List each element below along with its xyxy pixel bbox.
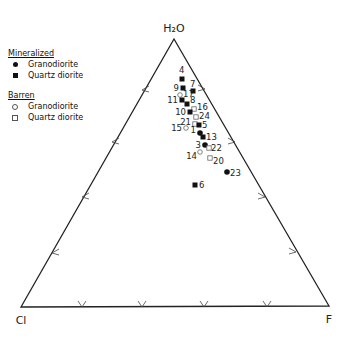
legend: Mineralized Granodiorite Quartz diorite … [8, 46, 83, 123]
data-point-23: 23 [224, 168, 241, 178]
svg-text:3: 3 [196, 140, 201, 150]
data-point-14: 14 [186, 150, 202, 161]
svg-text:5: 5 [202, 120, 207, 130]
vertex-label-cl: Cl [16, 314, 27, 327]
data-point-20: 20 [208, 156, 224, 166]
data-point-10: 10 [175, 107, 192, 117]
svg-text:23: 23 [230, 168, 241, 178]
legend-label: Quartz diorite [28, 70, 83, 81]
filled-circle-icon [10, 62, 20, 67]
svg-text:10: 10 [175, 107, 186, 117]
data-point-6: 6 [193, 180, 205, 190]
legend-item-barren-quartz-diorite: Quartz diorite [10, 112, 83, 123]
tick-marks [52, 85, 296, 307]
svg-text:6: 6 [199, 180, 204, 190]
legend-item-mineralized-quartz-diorite: Quartz diorite [10, 70, 83, 81]
svg-text:9: 9 [174, 83, 179, 93]
svg-text:22: 22 [211, 143, 222, 153]
data-point-22: 22 [207, 143, 222, 153]
svg-text:1: 1 [191, 125, 196, 135]
legend-heading-barren: Barren [8, 90, 83, 101]
open-square-icon [10, 115, 20, 121]
vertex-label-h2o: H₂O [163, 22, 185, 35]
svg-text:4: 4 [179, 65, 184, 75]
svg-text:20: 20 [213, 156, 224, 166]
open-circle-icon [10, 104, 20, 110]
filled-square-icon [10, 73, 20, 78]
legend-item-mineralized-granodiorite: Granodiorite [10, 59, 83, 70]
legend-label: Granodiorite [28, 101, 78, 112]
svg-text:8: 8 [190, 95, 195, 105]
legend-heading-mineralized: Mineralized [8, 48, 83, 59]
data-point-4: 4 [179, 65, 185, 82]
legend-label: Granodiorite [28, 59, 78, 70]
data-point-13: 13 [201, 132, 217, 142]
svg-text:13: 13 [206, 132, 217, 142]
svg-text:7: 7 [190, 79, 195, 89]
svg-text:11: 11 [167, 95, 178, 105]
svg-text:15: 15 [171, 123, 182, 133]
legend-label: Quartz diorite [28, 112, 83, 123]
data-point-5: 5 [197, 120, 208, 130]
vertex-label-f: F [326, 313, 332, 326]
data-points: 49717118161024215151133221420236 [167, 65, 241, 190]
legend-item-barren-granodiorite: Granodiorite [10, 101, 83, 112]
svg-text:14: 14 [186, 151, 197, 161]
